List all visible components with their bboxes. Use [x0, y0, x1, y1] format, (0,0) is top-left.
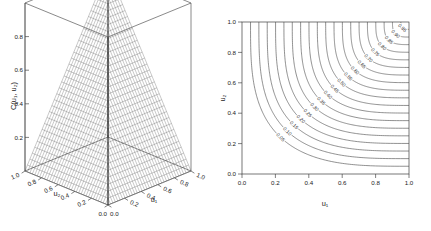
contour-label: 0.30: [309, 102, 319, 112]
contour-label: 0.75: [370, 47, 380, 57]
contour-x-tick-label: 0.8: [371, 179, 380, 186]
u1-tick-label: 1.0: [196, 171, 207, 181]
contour-label: 0.35: [316, 96, 326, 106]
u1-tick-label: 0.6: [162, 185, 173, 195]
contour-label: 0.90: [390, 29, 400, 39]
contour-level-labels: 0.050.050.100.100.150.150.200.200.250.25…: [275, 23, 407, 143]
contour-y-tick-label: 1.0: [227, 18, 236, 25]
u2-axis-label: u₂: [54, 189, 61, 198]
contour-label: 0.55: [343, 71, 353, 81]
contour-label: 0.65: [357, 59, 367, 69]
u2-tick-label: 0.4: [60, 191, 71, 201]
copula-figure: 0.20.40.60.81.00.80.60.40.20.20.40.60.81…: [0, 0, 431, 231]
z-axis-label: C(u₁, u₂): [9, 82, 18, 110]
contour-panel: 0.050.050.100.100.150.150.200.200.250.25…: [216, 0, 431, 231]
contour-label: 0.80: [377, 41, 387, 51]
u2-tick-label: 0.6: [43, 184, 54, 194]
contour-x-tick-label: 0.6: [338, 179, 347, 186]
u2-tick-label: 0.8: [26, 177, 37, 187]
u2-tick-label: 1.0: [10, 171, 21, 181]
origin-label-u2: 0.0: [98, 210, 107, 217]
u1-tick-label: 0.2: [129, 198, 140, 208]
surface-plot: 0.20.40.60.81.00.80.60.40.20.20.40.60.81…: [0, 0, 216, 231]
u2-tick-label: 0.2: [76, 198, 87, 208]
contour-y-tick-label: 0.8: [227, 49, 236, 56]
contour-x-axis-label: u₁: [322, 199, 329, 208]
contour-label: 0.95: [397, 23, 407, 33]
surface-panel: 0.20.40.60.81.00.80.60.40.20.20.40.60.81…: [0, 0, 216, 231]
contour-label: 0.60: [350, 65, 360, 75]
contour-label: 0.25: [302, 108, 312, 118]
z-tick-label: 0.8: [14, 33, 23, 40]
contour-label: 0.05: [275, 132, 285, 142]
contour-label: 0.70: [363, 53, 373, 63]
u1-tick-label: 0.8: [179, 178, 190, 188]
z-tick-label: 0.6: [14, 66, 23, 73]
contour-label: 0.10: [282, 126, 292, 136]
contour-label: 0.15: [289, 120, 299, 130]
contour-x-tick-label: 1.0: [405, 179, 414, 186]
contour-x-tick-label: 0.2: [271, 179, 280, 186]
contour-x-tick-label: 0.4: [304, 179, 313, 186]
z-tick-label: 0.2: [14, 134, 23, 141]
contour-y-tick-label: 0.6: [227, 79, 236, 86]
contour-y-axis-label: u₂: [218, 94, 227, 101]
contour-plot: 0.050.050.100.100.150.150.200.200.250.25…: [216, 0, 431, 231]
contour-y-tick-label: 0.2: [227, 140, 236, 147]
contour-label: 0.50: [336, 78, 346, 88]
contour-label: 0.85: [384, 35, 394, 45]
contour-label: 0.20: [296, 114, 306, 124]
contour-y-tick-label: 0.0: [227, 170, 236, 177]
contour-x-tick-label: 0.0: [238, 179, 247, 186]
contour-label: 0.45: [329, 84, 339, 94]
origin-label-u1: 0.0: [110, 210, 119, 217]
contour-y-tick-label: 0.4: [227, 109, 236, 116]
u1-axis-label: u₁: [151, 195, 158, 204]
contour-label: 0.40: [323, 90, 333, 100]
